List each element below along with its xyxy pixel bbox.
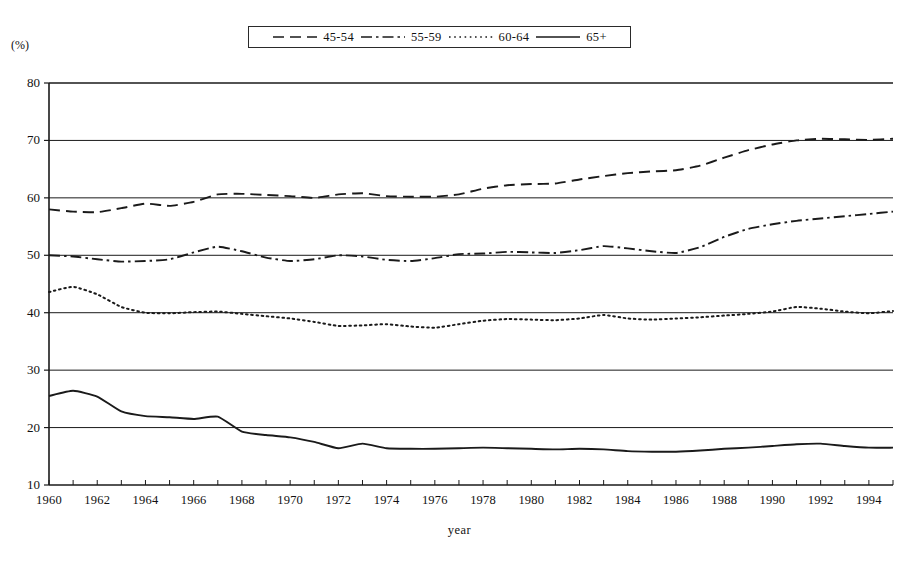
y-tick-label: 40 [6,306,40,319]
x-tick-label: 1994 [848,494,890,507]
x-tick-label: 1972 [317,494,359,507]
series-line-55-59 [49,212,893,262]
x-tick-label: 1976 [414,494,456,507]
y-tick-label: 20 [6,421,40,434]
y-tick-label: 60 [6,191,40,204]
x-tick-label: 1974 [366,494,408,507]
x-tick-label: 1990 [751,494,793,507]
x-tick-label: 1966 [173,494,215,507]
x-tick-label: 1964 [124,494,166,507]
x-axis-title: year [0,523,919,538]
chart-figure: 45-5455-5960-6465+ (%) 80706050403020101… [0,0,919,562]
x-tick-label: 1978 [462,494,504,507]
plot-area: 8070605040302010196019621964196619681970… [0,0,919,562]
x-tick-label: 1980 [510,494,552,507]
series-line-65plus [49,391,893,452]
y-tick-label: 80 [6,76,40,89]
series-line-60-64 [49,287,893,328]
x-tick-label: 1982 [559,494,601,507]
y-tick-label: 50 [6,248,40,261]
x-tick-label: 1962 [76,494,118,507]
x-tick-label: 1968 [221,494,263,507]
x-tick-label: 1988 [703,494,745,507]
x-tick-label: 1960 [28,494,70,507]
chart-canvas [0,0,919,562]
y-tick-label: 30 [6,363,40,376]
series-line-45-54 [49,139,893,213]
x-tick-label: 1984 [607,494,649,507]
y-tick-label: 10 [6,478,40,491]
x-tick-label: 1992 [800,494,842,507]
y-tick-label: 70 [6,133,40,146]
x-tick-label: 1986 [655,494,697,507]
x-tick-label: 1970 [269,494,311,507]
